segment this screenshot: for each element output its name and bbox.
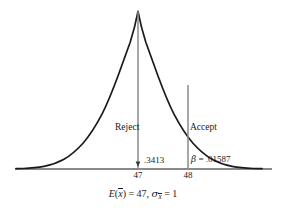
normal-distribution-figure: Reject Accept .3413 β = .01587 47 48 E(x… xyxy=(0,0,286,213)
reject-region-label: Reject xyxy=(115,123,139,133)
caption-mean-value: = 47, xyxy=(126,188,149,199)
area-pointer-arrow xyxy=(136,162,141,167)
x-tick-label-48: 48 xyxy=(176,171,200,180)
beta-value-text: = .01587 xyxy=(196,154,230,164)
x-tick-label-47: 47 xyxy=(126,171,150,180)
accept-region-label: Accept xyxy=(190,123,217,133)
figure-caption: E(x) = 47, σx = 1 xyxy=(0,189,286,201)
normal-curve xyxy=(16,11,262,168)
caption-sd-value: = 1 xyxy=(162,188,178,199)
sigma-subscript-xbar: x xyxy=(158,194,161,201)
x-bar-symbol: x xyxy=(118,189,122,199)
distribution-plot xyxy=(0,0,286,213)
beta-label: β = .01587 xyxy=(191,155,231,164)
area-alpha-label: .3413 xyxy=(144,156,164,165)
